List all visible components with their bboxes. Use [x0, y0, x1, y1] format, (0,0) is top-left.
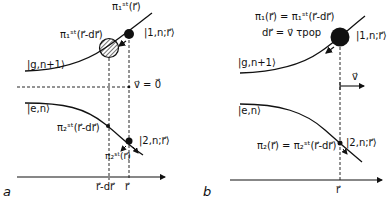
- label-lower-state: |e,n⟩: [27, 104, 50, 114]
- panel-letter-b: b: [203, 184, 211, 199]
- label-upper-state-b: |g,n+1⟩: [238, 58, 276, 68]
- label-pi1-r-dr: π₁ˢᵗ(r⃗-dr⃗): [60, 30, 103, 40]
- hatched-population-circle: [100, 39, 119, 58]
- label-pi2-equation: π₂(r⃗) = π₂ˢᵗ(r⃗-dr⃗): [257, 141, 336, 151]
- label-lower-state-b: |e,n⟩: [238, 106, 261, 116]
- label-upper-state: |g,n+1⟩: [27, 60, 65, 70]
- label-dressed-2: |2,n;r⃗⟩: [139, 136, 170, 146]
- population-dot-upper-b: [331, 28, 350, 47]
- label-dr-equation: dr⃗ = v⃗ τpop: [262, 28, 321, 38]
- label-pi2-r: π₂ˢᵗ(r⃗): [105, 152, 131, 161]
- diagram-canvas: [0, 0, 392, 200]
- panel-letter-a: a: [3, 184, 11, 199]
- label-pi1-equation: π₁(r⃗) = π₁ˢᵗ(r⃗-dr⃗): [255, 12, 334, 22]
- population-dot-upper: [124, 29, 134, 39]
- tick-r-b: r⃗: [336, 185, 340, 195]
- tick-r: r⃗: [125, 182, 129, 192]
- label-dressed-1: |1,n;r⃗⟩: [144, 28, 175, 38]
- label-velocity-zero: v⃗ = 0⃗: [134, 80, 161, 90]
- tick-r-minus-dr: r⃗-dr⃗: [96, 182, 114, 192]
- label-dressed-2-b: |2,n;r⃗⟩: [346, 138, 377, 148]
- label-pi1-r: π₁ˢᵗ(r⃗): [112, 2, 141, 12]
- label-velocity-b: v⃗: [352, 72, 358, 82]
- label-pi2-r-dr: π₂ˢᵗ(r⃗-dr⃗): [57, 123, 100, 133]
- label-dressed-1-b: |1,n;r⃗⟩: [356, 31, 387, 41]
